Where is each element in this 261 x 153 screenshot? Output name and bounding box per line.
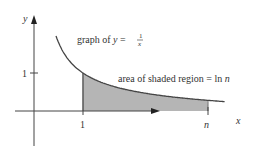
- area-under-curve-diagram: y x 1 1 n graph of y = 1 x area of shade…: [0, 0, 261, 153]
- curve-label-eq: =: [118, 34, 127, 45]
- region-label: area of shaded region = ln n: [118, 73, 230, 84]
- region-label-var: n: [225, 73, 230, 84]
- y-axis-arrow: [31, 15, 37, 24]
- fraction-numerator: 1: [139, 32, 143, 40]
- y-tick-label-one: 1: [22, 68, 27, 79]
- x-axis-label: x: [235, 115, 241, 126]
- x-tick-label-one: 1: [80, 119, 85, 130]
- y-axis-label: y: [22, 13, 28, 24]
- fraction-denominator: x: [137, 40, 142, 48]
- curve-label-prefix: graph of: [77, 34, 113, 45]
- region-label-prefix: area of shaded region = ln: [118, 73, 225, 84]
- curve-label: graph of y =: [77, 34, 126, 45]
- x-tick-label-n: n: [204, 119, 209, 130]
